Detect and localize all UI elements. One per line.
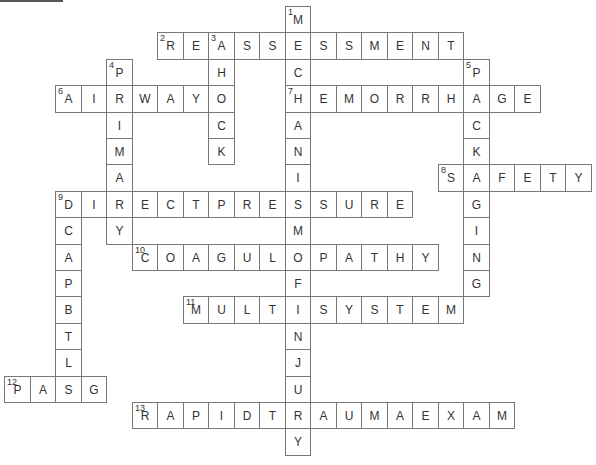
crossword-cell[interactable]: E: [310, 85, 337, 113]
crossword-cell[interactable]: C: [55, 217, 82, 245]
crossword-cell[interactable]: H: [438, 85, 464, 113]
crossword-cell[interactable]: I: [463, 217, 490, 245]
crossword-cell[interactable]: S: [310, 32, 337, 60]
crossword-cell[interactable]: R: [106, 191, 133, 218]
crossword-cell[interactable]: A: [157, 402, 184, 429]
crossword-cell[interactable]: C10: [132, 244, 158, 271]
crossword-cell[interactable]: R2: [157, 32, 184, 60]
crossword-cell[interactable]: A: [463, 402, 490, 429]
crossword-cell[interactable]: T: [259, 296, 286, 324]
crossword-cell[interactable]: A: [30, 376, 56, 403]
crossword-cell[interactable]: E: [132, 191, 158, 218]
crossword-cell[interactable]: P: [183, 402, 209, 429]
crossword-cell[interactable]: O: [285, 244, 311, 271]
crossword-cell[interactable]: G: [81, 376, 107, 403]
crossword-cell[interactable]: O: [361, 85, 388, 113]
crossword-cell[interactable]: R: [361, 191, 388, 218]
crossword-cell[interactable]: H: [208, 59, 235, 86]
crossword-cell[interactable]: D: [234, 402, 260, 429]
crossword-cell[interactable]: M: [106, 138, 133, 165]
crossword-cell[interactable]: S: [361, 296, 388, 324]
crossword-cell[interactable]: S: [259, 32, 286, 60]
crossword-cell[interactable]: C: [463, 112, 490, 139]
crossword-cell[interactable]: O: [208, 85, 235, 113]
crossword-cell[interactable]: E: [183, 32, 209, 60]
crossword-cell[interactable]: W: [132, 85, 158, 113]
crossword-cell[interactable]: F: [489, 164, 515, 192]
crossword-cell[interactable]: A: [183, 244, 209, 271]
crossword-cell[interactable]: R: [234, 191, 260, 218]
crossword-cell[interactable]: U: [234, 244, 260, 271]
crossword-cell[interactable]: I: [81, 85, 107, 113]
crossword-cell[interactable]: E: [259, 191, 286, 218]
crossword-cell[interactable]: R13: [132, 402, 158, 429]
crossword-cell[interactable]: R: [106, 85, 133, 113]
crossword-cell[interactable]: P: [208, 191, 235, 218]
crossword-cell[interactable]: R: [412, 85, 439, 113]
crossword-cell[interactable]: M: [336, 85, 362, 113]
crossword-cell[interactable]: S: [310, 191, 337, 218]
crossword-cell[interactable]: H7: [285, 85, 311, 113]
crossword-cell[interactable]: S: [234, 32, 260, 60]
crossword-cell[interactable]: I: [208, 402, 235, 429]
crossword-cell[interactable]: T: [183, 191, 209, 218]
crossword-cell[interactable]: L: [55, 349, 82, 377]
crossword-cell[interactable]: M: [285, 217, 311, 245]
crossword-cell[interactable]: Y: [565, 164, 592, 192]
crossword-cell[interactable]: U: [285, 376, 311, 403]
crossword-cell[interactable]: I: [106, 112, 133, 139]
crossword-cell[interactable]: K: [463, 138, 490, 165]
crossword-cell[interactable]: A: [310, 402, 337, 429]
crossword-cell[interactable]: B: [55, 296, 82, 324]
crossword-cell[interactable]: I: [285, 164, 311, 192]
crossword-cell[interactable]: A: [387, 402, 413, 429]
crossword-cell[interactable]: A: [157, 85, 184, 113]
crossword-cell[interactable]: Y: [183, 85, 209, 113]
crossword-cell[interactable]: S: [336, 32, 362, 60]
crossword-cell[interactable]: M: [361, 402, 388, 429]
crossword-cell[interactable]: U: [208, 296, 235, 324]
crossword-cell[interactable]: P: [55, 270, 82, 297]
crossword-cell[interactable]: G: [208, 244, 235, 271]
crossword-cell[interactable]: C: [208, 112, 235, 139]
crossword-cell[interactable]: E: [387, 32, 413, 60]
crossword-cell[interactable]: N: [412, 32, 439, 60]
crossword-cell[interactable]: T: [361, 244, 388, 271]
crossword-cell[interactable]: N: [285, 138, 311, 165]
crossword-cell[interactable]: Y: [336, 296, 362, 324]
crossword-cell[interactable]: A6: [55, 85, 82, 113]
crossword-cell[interactable]: T: [55, 323, 82, 350]
crossword-cell[interactable]: E: [514, 164, 541, 192]
crossword-cell[interactable]: N: [285, 323, 311, 350]
crossword-cell[interactable]: P4: [106, 59, 133, 86]
crossword-cell[interactable]: G: [489, 85, 515, 113]
crossword-cell[interactable]: R: [387, 85, 413, 113]
crossword-cell[interactable]: Y: [285, 428, 311, 456]
crossword-cell[interactable]: S: [285, 191, 311, 218]
crossword-cell[interactable]: R: [285, 402, 311, 429]
crossword-cell[interactable]: L: [259, 244, 286, 271]
crossword-cell[interactable]: C: [157, 191, 184, 218]
crossword-cell[interactable]: X: [438, 402, 464, 429]
crossword-cell[interactable]: F: [285, 270, 311, 297]
crossword-cell[interactable]: S: [55, 376, 82, 403]
crossword-cell[interactable]: T: [387, 296, 413, 324]
crossword-cell[interactable]: T: [259, 402, 286, 429]
crossword-cell[interactable]: T: [438, 32, 464, 60]
crossword-cell[interactable]: A3: [208, 32, 235, 60]
crossword-cell[interactable]: A: [285, 112, 311, 139]
crossword-cell[interactable]: A: [106, 164, 133, 192]
crossword-cell[interactable]: Y: [412, 244, 439, 271]
crossword-cell[interactable]: S: [310, 296, 337, 324]
crossword-cell[interactable]: H: [387, 244, 413, 271]
crossword-cell[interactable]: I: [81, 191, 107, 218]
crossword-cell[interactable]: I: [285, 296, 311, 324]
crossword-cell[interactable]: E: [387, 191, 413, 218]
crossword-cell[interactable]: K: [208, 138, 235, 165]
crossword-cell[interactable]: M11: [183, 296, 209, 324]
crossword-cell[interactable]: E: [412, 402, 439, 429]
crossword-cell[interactable]: M: [361, 32, 388, 60]
crossword-cell[interactable]: C: [285, 59, 311, 86]
crossword-cell[interactable]: J: [285, 349, 311, 377]
crossword-cell[interactable]: E: [514, 85, 541, 113]
